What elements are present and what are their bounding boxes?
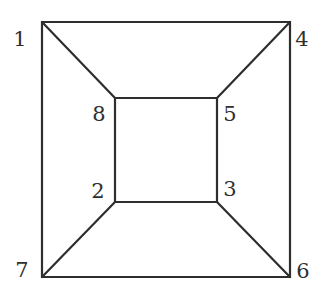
vertex-label-3: 3	[223, 179, 236, 200]
vertex-label-5: 5	[223, 104, 236, 125]
vertex-label-1: 1	[13, 29, 26, 50]
canvas-background	[0, 0, 325, 300]
vertex-label-6: 6	[296, 261, 309, 282]
figure-container: 1 4 8 5 2 3 7 6	[0, 0, 325, 300]
vertex-label-8: 8	[92, 104, 105, 125]
diagram-canvas	[0, 0, 325, 300]
vertex-label-7: 7	[15, 260, 28, 281]
vertex-label-2: 2	[91, 181, 104, 202]
vertex-label-4: 4	[295, 29, 308, 50]
